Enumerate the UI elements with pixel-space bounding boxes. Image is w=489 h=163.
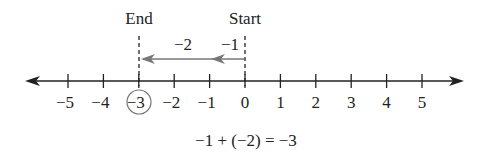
start-label: Start xyxy=(229,9,261,28)
tick-label: 4 xyxy=(382,93,391,112)
tick-label: 0 xyxy=(241,93,250,112)
tick-label: −2 xyxy=(162,93,180,112)
tick-labels: −5−4−3−2−1012345 xyxy=(56,93,426,112)
tick-label: 2 xyxy=(312,93,321,112)
number-line-diagram: −5−4−3−2−1012345 End Start −2 −1 −1 + (−… xyxy=(0,0,489,163)
equation: −1 + (−2) = −3 xyxy=(195,131,297,150)
move-label-minus-2: −2 xyxy=(174,35,192,54)
tick-label: −1 xyxy=(198,93,216,112)
tick-label: −5 xyxy=(56,93,74,112)
tick-label: −4 xyxy=(91,93,110,112)
end-label: End xyxy=(125,9,153,28)
move-label-minus-1: −1 xyxy=(221,35,239,54)
tick-label: 5 xyxy=(418,93,427,112)
tick-label: 3 xyxy=(347,93,356,112)
tick-label: 1 xyxy=(276,93,285,112)
move-arrows xyxy=(141,54,244,64)
